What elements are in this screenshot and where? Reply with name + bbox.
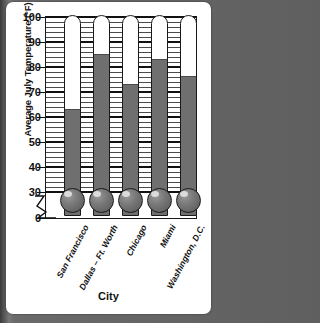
thermometer-tube (151, 15, 168, 216)
thermometer-bar[interactable] (93, 15, 110, 218)
thermometer-bar[interactable] (180, 15, 197, 218)
thermometer-bulb (147, 188, 172, 213)
thermometer-tube (64, 15, 81, 216)
y-tick-label: 60 (29, 111, 41, 123)
chart-page: Average July Temperature (°F) 0304050607… (6, 2, 211, 314)
thermometer-bulb (60, 188, 85, 213)
thermometer-tube (180, 15, 197, 216)
y-tick-label: 90 (29, 36, 41, 48)
y-tick-label: 50 (29, 136, 41, 148)
thermometer-bar[interactable] (151, 15, 168, 218)
x-tick-label: Chicago (124, 223, 149, 258)
y-tick-label: 80 (29, 61, 41, 73)
thermometer-bulb (176, 188, 201, 213)
thermometer-tube (93, 15, 110, 216)
plot-area: 030405060708090100 (45, 16, 197, 219)
thermometer-tube (122, 15, 139, 216)
thermometer-bar-chart: Average July Temperature (°F) 0304050607… (6, 2, 211, 314)
thermometer-bulb (118, 188, 143, 213)
x-axis-label: City (6, 290, 211, 302)
thermometer-bulb (89, 188, 114, 213)
y-tick-label: 40 (29, 161, 41, 173)
y-tick-label: 70 (29, 86, 41, 98)
thermometer-bar[interactable] (122, 15, 139, 218)
thermometer-bar[interactable] (64, 15, 81, 218)
y-tick-label: 100 (23, 11, 41, 23)
axis-break-icon (34, 192, 56, 220)
x-tick-label: Miami (158, 223, 178, 249)
